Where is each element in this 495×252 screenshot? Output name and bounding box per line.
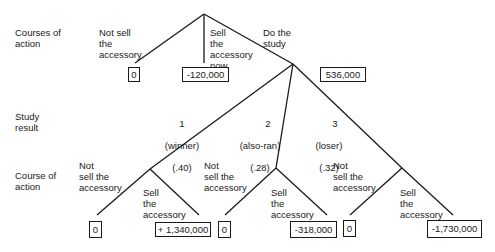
- payoff-do-study: 536,000: [320, 67, 366, 82]
- r3-not-sell-payoff: 0: [343, 220, 356, 237]
- result-2-probability: (.28): [250, 162, 270, 173]
- option-label-not-sell: Not sell the accessory: [99, 27, 142, 60]
- r1-sell-label: Sell the accessory: [143, 187, 186, 220]
- result-1-probability: (.40): [172, 162, 192, 173]
- row-label-course-of-action: Course of action: [15, 170, 56, 192]
- r1-sell-payoff: + 1,340,000: [155, 222, 211, 237]
- payoff-sell-now: -120,000: [182, 67, 229, 82]
- r3-sell-label: Sell the accessory: [400, 187, 443, 220]
- r3-not-sell-label: Not sell the accessory: [333, 160, 376, 193]
- result-3-name: (loser): [316, 140, 343, 151]
- branch-not-sell: [135, 14, 204, 63]
- r2-sell-label: Sell the accessory: [271, 187, 314, 220]
- r3-sell-payoff: -1,730,000: [427, 220, 482, 238]
- result-2-number: 2: [249, 118, 270, 129]
- r1-not-sell-payoff: 0: [89, 221, 102, 238]
- payoff-not-sell: 0: [128, 67, 140, 82]
- result-1-number: 1: [179, 118, 184, 129]
- option-label-do-study: Do the study: [263, 27, 291, 49]
- option-label-sell-now: Sell the accessory now: [210, 27, 253, 71]
- r2-not-sell-payoff: 0: [218, 221, 231, 238]
- result-1-label: 1 (winner) (.40): [160, 107, 204, 173]
- r1-not-sell-label: Not sell the accessory: [79, 160, 122, 193]
- r2-sell-payoff: -318,000: [290, 221, 337, 238]
- r2-not-sell-label: Not sell the accessory: [204, 160, 247, 193]
- result-1-name: (winner): [165, 140, 199, 151]
- row-label-courses-of-action: Courses of action: [15, 27, 61, 49]
- row-label-study-result: Study result: [15, 111, 39, 133]
- result-3-number: 3: [320, 118, 337, 129]
- result-2-name: (also-ran): [240, 140, 281, 151]
